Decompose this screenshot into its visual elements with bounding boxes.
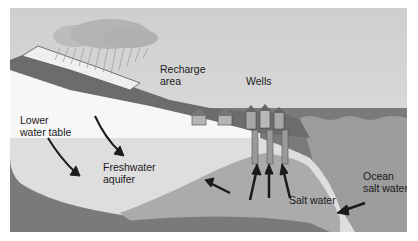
label-freshwater-aquifer: Freshwater aquifer bbox=[103, 161, 156, 185]
wells bbox=[252, 130, 288, 164]
label-ocean-salt-water: Ocean salt water bbox=[363, 170, 407, 194]
label-lower-water-table: Lower water table bbox=[20, 114, 71, 138]
label-salt-water: Salt water bbox=[289, 194, 336, 206]
label-wells: Wells bbox=[246, 75, 271, 87]
diagram-frame: Recharge area Wells Lower water table Fr… bbox=[10, 8, 407, 232]
label-recharge-area: Recharge area bbox=[160, 63, 206, 87]
